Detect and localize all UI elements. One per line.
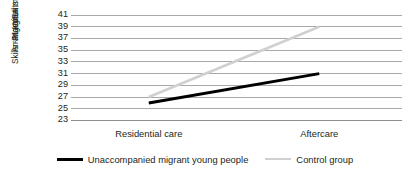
y-axis-tick-labels: 41393735333129272523 <box>44 0 68 134</box>
legend-item[interactable]: Control group <box>265 154 353 165</box>
y-tick-label: 25 <box>58 104 68 113</box>
series-line <box>149 73 319 102</box>
plot-area <box>71 15 402 121</box>
y-tick-label: 41 <box>58 10 68 19</box>
line-chart-figure: Marginal mean scores in Daily Arrangemen… <box>0 0 410 171</box>
legend-swatch <box>57 158 83 161</box>
y-tick-label: 37 <box>58 33 68 42</box>
legend-label: Unaccompanied migrant young people <box>88 154 249 165</box>
y-axis-title: Marginal mean scores in Daily Arrangemen… <box>0 0 35 115</box>
y-axis-title-line-2: Arrangements and Organizational <box>11 39 21 52</box>
y-tick-label: 27 <box>58 92 68 101</box>
y-tick-label: 31 <box>58 69 68 78</box>
legend-label: Control group <box>296 154 353 165</box>
y-tick-label: 35 <box>58 45 68 54</box>
x-tick-label: Residential care <box>115 128 182 139</box>
y-axis-title-line-1: Marginal mean scores in Daily <box>11 26 21 39</box>
series-line <box>149 26 319 96</box>
chart-legend: Unaccompanied migrant young peopleContro… <box>0 150 410 168</box>
x-axis-line <box>71 120 402 121</box>
series-lines <box>71 15 402 121</box>
x-tick-label: Aftercare <box>300 128 338 139</box>
y-tick-label: 39 <box>58 22 68 31</box>
x-axis-tick-labels: Residential careAftercare <box>71 128 402 142</box>
legend-item[interactable]: Unaccompanied migrant young people <box>57 154 249 165</box>
y-tick-label: 23 <box>58 115 68 124</box>
legend-swatch <box>265 158 291 160</box>
y-axis-title-line-3: Skills -PLANEA <box>11 52 21 64</box>
y-tick-label: 33 <box>58 57 68 66</box>
y-tick-label: 29 <box>58 80 68 89</box>
